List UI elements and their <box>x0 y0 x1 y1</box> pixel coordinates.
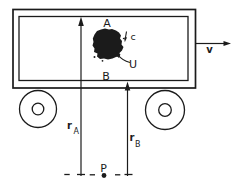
label-point-B: B <box>102 70 110 83</box>
velocity-v-arrowhead <box>224 41 232 46</box>
blob-speck <box>102 60 104 62</box>
label-rB-base: r <box>130 132 135 143</box>
right-wheel-rim <box>146 91 185 130</box>
vector-rB-arrowhead <box>125 82 131 91</box>
pointer-c-arrowhead <box>124 37 127 42</box>
label-velocity-U: U <box>129 58 137 71</box>
label-mass-c: c <box>131 31 136 42</box>
label-rB-subscript: B <box>135 140 141 149</box>
label-rA-base: r <box>67 120 72 131</box>
label-velocity-v: v <box>206 44 213 55</box>
vector-rA-arrow <box>78 17 84 176</box>
blob-speck <box>94 56 96 58</box>
vector-rB-arrow <box>125 82 131 177</box>
label-point-A: A <box>103 17 111 30</box>
left-wheel-rim <box>20 91 57 128</box>
velocity-v-arrow <box>196 41 232 46</box>
physics-cart-diagram: A B c U v P r A r B <box>0 0 236 188</box>
label-point-P: P <box>100 162 107 175</box>
pointer-c-arrow <box>124 32 127 43</box>
label-radius-rA: r A <box>67 120 80 136</box>
blob-speck <box>123 38 124 39</box>
left-wheel <box>20 91 57 128</box>
right-wheel <box>146 91 185 130</box>
pointer-U-arrow <box>115 51 130 63</box>
label-radius-rB: r B <box>130 132 141 149</box>
left-wheel-hub <box>32 103 44 115</box>
right-wheel-hub <box>159 104 172 117</box>
label-rA-subscript: A <box>74 127 80 136</box>
diagram-canvas: A B c U v P r A r B <box>0 0 236 188</box>
vector-rA-arrowhead <box>78 17 84 26</box>
